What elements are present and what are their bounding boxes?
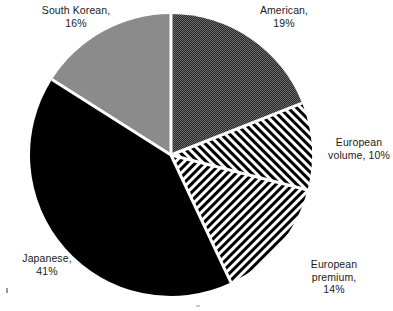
- pie-chart: American, 19% South Korean, 16% European…: [0, 0, 393, 311]
- pie-label-european-premium: European premium, 14%: [292, 258, 376, 296]
- pie-label-south-korean: South Korean, 16%: [6, 4, 146, 29]
- scan-artifact-speck: [6, 288, 8, 293]
- pie-label-american: American, 19%: [234, 4, 334, 29]
- pie-label-european-volume: European volume, 10%: [325, 136, 393, 161]
- pie-label-japanese: Japanese, 41%: [4, 252, 90, 277]
- scan-artifact-speck: [196, 305, 200, 307]
